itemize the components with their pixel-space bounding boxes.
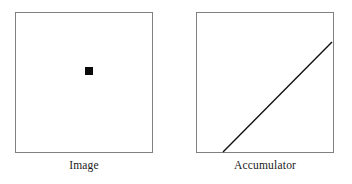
accumulator-diagonal-line — [223, 42, 332, 152]
hough-transform-figure: Image Accumulator — [0, 0, 352, 184]
accumulator-panel-caption: Accumulator — [196, 158, 334, 172]
accumulator-line-svg — [197, 13, 333, 152]
image-panel — [15, 12, 153, 153]
accumulator-panel — [196, 12, 334, 153]
image-panel-caption: Image — [15, 158, 153, 172]
black-square-point-icon — [85, 67, 93, 75]
